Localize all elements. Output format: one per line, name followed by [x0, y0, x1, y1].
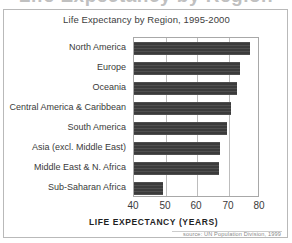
x-axis-tick-labels: 4050607080 — [133, 200, 259, 214]
category-label: Central America & Caribbean — [0, 102, 126, 112]
x-tick-label: 70 — [222, 200, 233, 211]
bar — [134, 142, 220, 155]
plot-area — [133, 37, 259, 197]
bar — [134, 42, 250, 55]
x-tick-label: 40 — [127, 200, 138, 211]
x-axis-title: LIFE EXPECTANCY (YEARS) — [4, 217, 289, 227]
bar — [134, 82, 237, 95]
category-label: North America — [0, 42, 126, 52]
x-tick-label: 60 — [190, 200, 201, 211]
category-label: Europe — [0, 62, 126, 72]
bar — [134, 182, 163, 195]
category-label: Oceania — [0, 82, 126, 92]
clipped-heading-text: Life Expectancy by Region — [19, 0, 273, 7]
category-label: Asia (excl. Middle East) — [0, 142, 126, 152]
source-note: source: UN Population Division, 1999 — [183, 231, 281, 237]
bars-layer — [134, 38, 258, 196]
x-tick-label: 50 — [159, 200, 170, 211]
category-axis-labels: North AmericaEuropeOceaniaCentral Americ… — [4, 37, 130, 197]
bar — [134, 62, 240, 75]
bar — [134, 122, 227, 135]
chart-title: Life Expectancy by Region, 1995-2000 — [4, 14, 289, 25]
category-label: South America — [0, 122, 126, 132]
bar — [134, 102, 231, 115]
category-label: Sub-Saharan Africa — [0, 182, 126, 192]
bar — [134, 162, 219, 175]
clipped-heading-strip: Life Expectancy by Region — [0, 0, 292, 9]
x-tick-label: 80 — [253, 200, 264, 211]
figure-frame: Life Expectancy by Region, 1995-2000 Nor… — [3, 9, 288, 238]
category-label: Middle East & N. Africa — [0, 162, 126, 172]
